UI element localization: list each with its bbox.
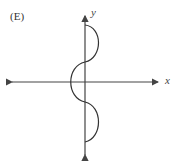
x-axis-label: x	[165, 74, 170, 86]
y-axis-label: y	[91, 6, 96, 18]
graph-canvas	[0, 0, 181, 164]
